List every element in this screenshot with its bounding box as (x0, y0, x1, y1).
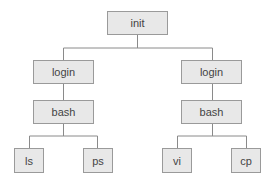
node-label: cp (240, 155, 252, 167)
node-ps: ps (83, 148, 113, 173)
node-label: init (130, 17, 144, 29)
node-label: login (52, 66, 75, 78)
node-login-right: login (181, 60, 242, 84)
node-init: init (107, 11, 168, 35)
node-label: vi (173, 155, 181, 167)
node-bash-right: bash (181, 100, 242, 124)
node-bash-left: bash (33, 100, 94, 124)
node-vi: vi (162, 148, 192, 173)
node-cp: cp (231, 148, 261, 173)
node-label: login (200, 66, 223, 78)
node-label: bash (200, 106, 224, 118)
node-label: bash (52, 106, 76, 118)
node-label: ps (92, 155, 104, 167)
node-ls: ls (14, 148, 44, 173)
node-label: ls (25, 155, 33, 167)
node-login-left: login (33, 60, 94, 84)
